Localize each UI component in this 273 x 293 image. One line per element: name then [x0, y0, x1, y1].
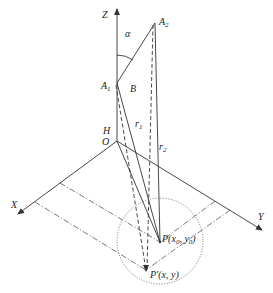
alpha-arc [117, 55, 133, 60]
y-axis-label: Y [258, 211, 265, 222]
y-axis [117, 141, 262, 230]
p-label: P(x0, y0) [161, 233, 196, 246]
o-to-p-line [117, 141, 160, 242]
point-p [159, 241, 161, 243]
alpha-label: α [125, 28, 131, 39]
r2-label: r2 [159, 141, 167, 154]
a2-vertical-line [155, 23, 160, 242]
x-projection-guide-1 [60, 183, 160, 242]
h-label: H [102, 125, 111, 136]
x-axis-label: X [10, 199, 18, 210]
x-projection-guide-2 [35, 202, 146, 270]
segment-a1-a2 [117, 23, 155, 83]
z-axis-label: Z [102, 9, 108, 20]
a2-dashed-line [147, 25, 153, 270]
geometry-diagram: Z α A2 A1 B H r1 O r2 X Y P(x0, y0) P'(x… [0, 0, 273, 293]
origin-label: O [102, 136, 109, 147]
p-prime-label: P'(x, y) [149, 269, 179, 281]
r1-label: r1 [135, 118, 142, 131]
a2-label: A2 [158, 16, 169, 29]
x-axis [18, 141, 117, 214]
b-label: B [130, 83, 136, 94]
a1-dashed-line [116, 85, 146, 270]
a1-label: A1 [100, 80, 111, 93]
